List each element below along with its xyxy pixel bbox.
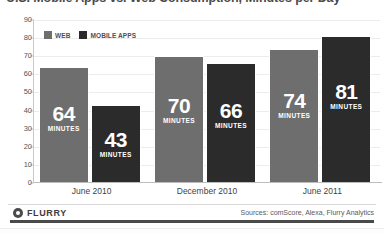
y-axis-tick-label: 80 [8, 34, 32, 42]
legend-swatch [79, 31, 87, 39]
y-axis-tick-label: 30 [8, 125, 32, 133]
bar-unit-label: MINUTES [40, 126, 88, 133]
footer-accent-bar [10, 220, 374, 223]
y-axis-tick-label: 60 [8, 71, 32, 79]
bar: 66MINUTES [206, 63, 256, 183]
bar: 43MINUTES [91, 105, 141, 183]
y-axis-tick-label: 50 [8, 89, 32, 97]
bar-unit-label: MINUTES [155, 118, 203, 125]
x-axis-labels: June 2010December 2010June 2011 [34, 184, 380, 200]
legend-label: WEB [55, 32, 70, 39]
legend-item: MOBILE APPS [79, 31, 136, 39]
x-axis-category-label: June 2011 [265, 186, 380, 196]
bar: 81MINUTES [321, 36, 371, 183]
bar-data-label: 66MINUTES [207, 100, 255, 130]
bar-value: 74 [270, 90, 318, 111]
bar-value: 70 [155, 95, 203, 116]
brand-name: FLURRY [27, 208, 67, 218]
bar-value: 66 [207, 100, 255, 121]
bar-unit-label: MINUTES [270, 113, 318, 120]
x-axis-category-label: June 2010 [34, 186, 149, 196]
bar-unit-label: MINUTES [322, 104, 370, 111]
legend-label: MOBILE APPS [90, 32, 136, 39]
flurry-brand: FLURRY [13, 208, 67, 218]
y-axis: 9080706050403020100 [4, 12, 32, 200]
bar-value: 81 [322, 81, 370, 102]
y-axis-tick-label: 0 [8, 179, 32, 187]
chart-legend: WEBMOBILE APPS [44, 31, 136, 39]
y-axis-tick-label: 90 [8, 16, 32, 24]
chart-plot-area: 9080706050403020100 64MINUTES43MINUTES70… [0, 12, 384, 200]
bar-data-label: 81MINUTES [322, 81, 370, 111]
chart-title: U.S. Mobile Apps vs. Web Consumption, Mi… [6, 0, 384, 5]
bar-data-label: 64MINUTES [40, 103, 88, 133]
bars-layer: 64MINUTES43MINUTES70MINUTES66MINUTES74MI… [34, 12, 380, 200]
bar: 64MINUTES [39, 67, 89, 183]
flurry-circle-icon [13, 208, 23, 218]
y-axis-tick-label: 40 [8, 107, 32, 115]
bar-value: 43 [92, 129, 140, 150]
legend-swatch [44, 31, 52, 39]
bar: 74MINUTES [269, 49, 319, 183]
bar: 70MINUTES [154, 56, 204, 183]
y-axis-tick-label: 10 [8, 161, 32, 169]
bar-unit-label: MINUTES [207, 123, 255, 130]
legend-item: WEB [44, 31, 70, 39]
x-axis-category-label: December 2010 [149, 186, 264, 196]
x-axis-line [34, 182, 382, 183]
sources-note: Sources: comScore, Alexa, Flurry Analyti… [241, 209, 374, 216]
bar-data-label: 70MINUTES [155, 95, 203, 125]
bar-value: 64 [40, 103, 88, 124]
bar-data-label: 74MINUTES [270, 90, 318, 120]
bar-unit-label: MINUTES [92, 152, 140, 159]
bottom-edge [0, 228, 384, 233]
y-axis-tick-label: 20 [8, 143, 32, 151]
y-axis-tick-label: 70 [8, 52, 32, 60]
bar-data-label: 43MINUTES [92, 129, 140, 159]
